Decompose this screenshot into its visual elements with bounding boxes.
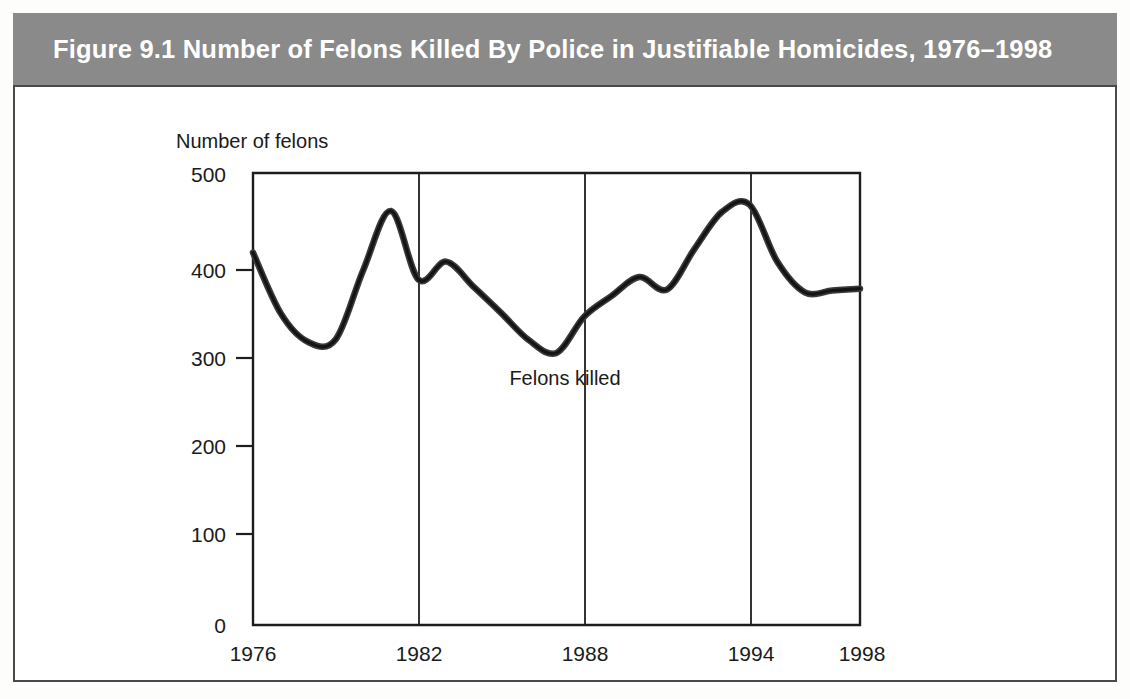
page-title: Figure 9.1 Number of Felons Killed By Po…: [53, 35, 1053, 64]
figure-container: Figure 9.1 Number of Felons Killed By Po…: [0, 0, 1130, 699]
figure-body-frame: [13, 85, 1117, 682]
figure-title-bar: Figure 9.1 Number of Felons Killed By Po…: [13, 13, 1117, 85]
